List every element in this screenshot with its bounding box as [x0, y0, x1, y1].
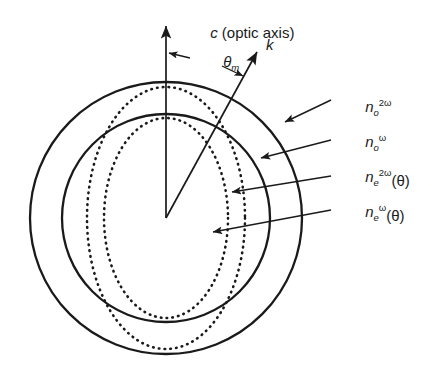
leader-line-group — [213, 100, 331, 232]
label-optic-axis-group: c (optic axis) — [181, 24, 315, 41]
label-no-omega: noω — [336, 127, 407, 153]
label-ne-omega-sub: e — [374, 212, 379, 223]
label-theta-m-symbol: θ — [223, 53, 231, 70]
leader-no-2omega — [285, 100, 331, 122]
diagram-canvas: c (optic axis) k θm no2ω noω ne2ω(θ) neω… — [0, 0, 442, 366]
label-ne-2omega-base: n — [365, 168, 373, 185]
label-ne-2omega-theta: ne2ω(θ) — [336, 167, 431, 189]
leader-no-omega — [261, 140, 331, 158]
label-optic-axis-text: (optic axis) — [218, 24, 295, 41]
label-no-omega-sub: o — [374, 142, 379, 153]
label-ne-2omega-arg: (θ) — [392, 172, 410, 189]
leader-ne-omega — [213, 210, 331, 232]
label-no-2omega-sup: 2ω — [379, 97, 392, 108]
label-ne-2omega-sub: e — [374, 177, 379, 188]
theta-arrow-left — [169, 53, 190, 58]
label-theta-m-group: θm — [194, 53, 260, 74]
leader-ne-2omega — [232, 176, 331, 192]
label-no-2omega-base: n — [365, 98, 373, 115]
index-surface-diagram: c (optic axis) k θm no2ω noω ne2ω(θ) neω… — [0, 0, 442, 366]
label-ne-omega-base: n — [365, 203, 373, 220]
label-no-2omega: no2ω — [336, 92, 412, 118]
label-ne-omega-theta: neω(θ) — [336, 202, 425, 224]
label-theta-m-subscript: m — [231, 62, 239, 73]
label-no-omega-base: n — [365, 133, 373, 150]
label-no-omega-sup: ω — [379, 132, 387, 143]
label-ne-omega-arg: (θ) — [386, 207, 404, 224]
label-ne-2omega-sup: 2ω — [379, 167, 392, 178]
label-no-2omega-sub: o — [374, 107, 379, 118]
